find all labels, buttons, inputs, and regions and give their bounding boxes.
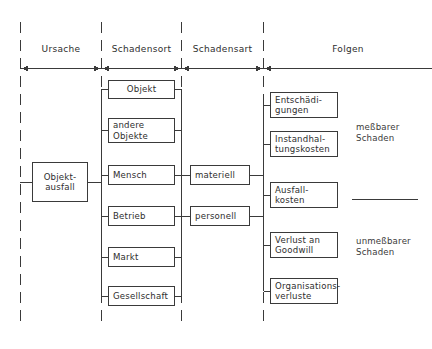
group-label-messbarer-schaden: meßbarer Schaden: [356, 122, 400, 144]
box-ausfallkosten[interactable]: Ausfall- kosten: [270, 182, 338, 208]
box-materiell[interactable]: materiell: [190, 165, 250, 185]
header-folgen: Folgen: [264, 44, 432, 54]
box-personell[interactable]: personell: [190, 206, 250, 226]
box-markt[interactable]: Markt: [108, 247, 175, 267]
arrowhead: [174, 66, 181, 71]
header-ursache: Ursache: [20, 44, 102, 54]
header-schadensart: Schadensart: [181, 44, 264, 54]
arrowhead: [21, 66, 28, 71]
box-instandhaltungskosten[interactable]: Instandhal- tungskosten: [270, 131, 338, 157]
box-entschaedigungen[interactable]: Entschädi- gungen: [270, 92, 338, 118]
box-objekt[interactable]: Objekt: [108, 80, 175, 99]
arrowhead: [102, 66, 109, 71]
header-schadensort: Schadensort: [101, 44, 182, 54]
arrowhead: [94, 66, 101, 71]
box-betrieb[interactable]: Betrieb: [108, 206, 175, 226]
box-organisationsverluste[interactable]: Organisations- verluste: [270, 278, 338, 304]
arrowhead: [256, 66, 263, 71]
group-label-unmessbarer-schaden: unmeßbarer Schaden: [356, 236, 411, 258]
arrowhead: [182, 66, 189, 71]
box-mensch[interactable]: Mensch: [108, 165, 175, 185]
box-objektausfall[interactable]: Objekt- ausfall: [32, 162, 88, 202]
box-andere-objekte[interactable]: andere Objekte: [108, 118, 175, 143]
box-gesellschaft[interactable]: Gesellschaft: [108, 286, 175, 306]
arrowhead: [264, 66, 271, 71]
box-verlust-an-goodwill[interactable]: Verlust an Goodwill: [270, 232, 338, 258]
damage-cause-effect-diagram: Ursache Schadensort Schadensart Folgen O…: [0, 0, 432, 349]
